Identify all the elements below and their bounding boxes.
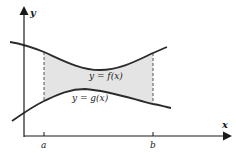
label-f: y = f(x) — [88, 71, 123, 81]
area-between-curves-diagram: y x y = f(x) y = g(x) a b — [0, 0, 236, 153]
y-axis-label: y — [29, 7, 37, 18]
bound-label-b: b — [150, 140, 156, 150]
x-axis-arrow-icon — [223, 132, 232, 141]
bound-label-a: a — [41, 140, 46, 150]
label-g: y = g(x) — [71, 93, 109, 103]
x-axis-label: x — [221, 119, 229, 130]
y-axis-arrow-icon — [20, 6, 29, 15]
